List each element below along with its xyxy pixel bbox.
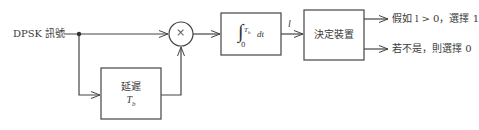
delay-feed-line <box>79 34 100 95</box>
multiplier-symbol: × <box>176 27 185 39</box>
delay-label: 延遲 Tb <box>101 80 161 111</box>
output-label-1: 假如 l > 0，選擇 1 <box>392 13 479 25</box>
integral-upper: Tb <box>244 26 250 35</box>
integrator-expression: ∫ Tb 0 dt <box>238 18 278 52</box>
delay-title: 延遲 <box>101 80 161 93</box>
integral-lower: 0 <box>241 41 245 49</box>
delay-param: Tb <box>101 93 161 111</box>
output-label-0: 若不是，則選擇 0 <box>392 43 472 55</box>
delay-output-line <box>161 47 181 95</box>
integrator-output-label: l <box>288 18 291 30</box>
integral-differential: dt <box>257 29 264 39</box>
decision-title: 決定裝置 <box>304 28 364 41</box>
junction-dot <box>77 32 81 36</box>
input-label: DPSK 訊號 <box>13 28 65 40</box>
